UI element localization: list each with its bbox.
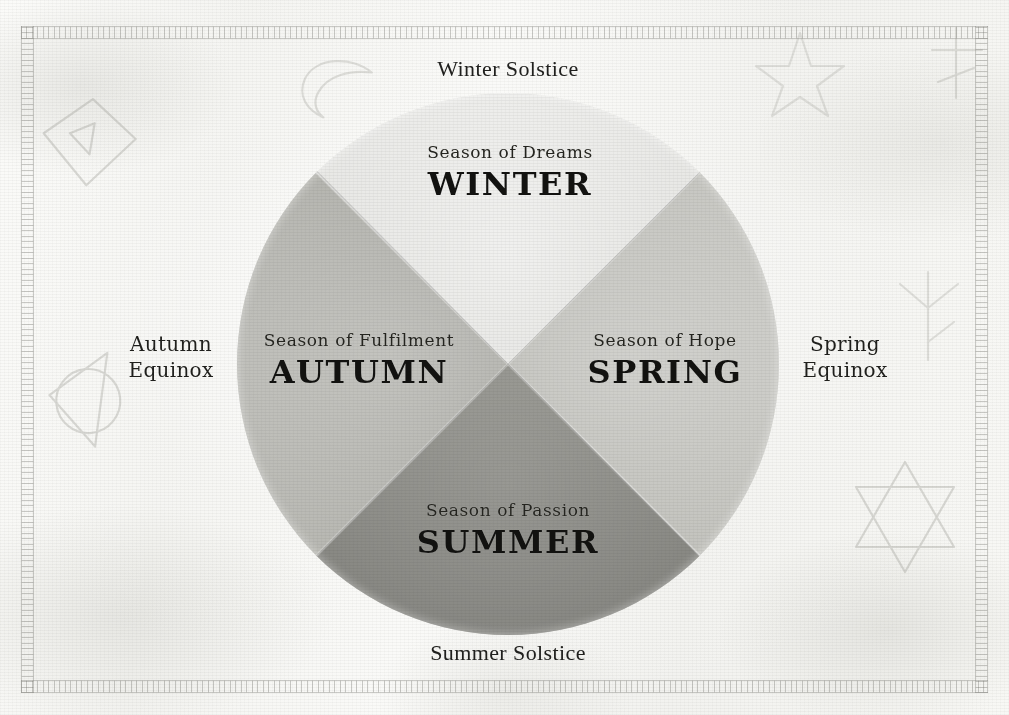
- label-autumn-equinox-line2: Equinox: [98, 357, 244, 383]
- hexagram-star-sigil: [840, 452, 970, 582]
- label-spring-equinox: Spring Equinox: [772, 331, 918, 383]
- rune-cross-sigil: [926, 24, 988, 104]
- frame-band-right: [975, 26, 988, 693]
- parchment-page: Season of Dreams WINTER Season of Hope S…: [0, 0, 1009, 715]
- label-autumn-equinox: Autumn Equinox: [98, 331, 244, 383]
- label-spring-equinox-line2: Equinox: [772, 357, 918, 383]
- circle-in-triangle-sigil: [32, 332, 164, 464]
- seasonal-wheel: [237, 93, 779, 635]
- frame-band-bottom: [21, 680, 988, 693]
- square-with-triangle-sigil: [28, 84, 153, 205]
- frame-band-left: [21, 26, 34, 693]
- label-spring-equinox-line1: Spring: [772, 331, 918, 357]
- label-autumn-equinox-line1: Autumn: [98, 331, 244, 357]
- frame-band-top: [21, 26, 988, 39]
- label-winter-solstice: Winter Solstice: [358, 56, 658, 82]
- label-summer-solstice: Summer Solstice: [358, 640, 658, 666]
- branching-rune-sigil: [894, 268, 964, 364]
